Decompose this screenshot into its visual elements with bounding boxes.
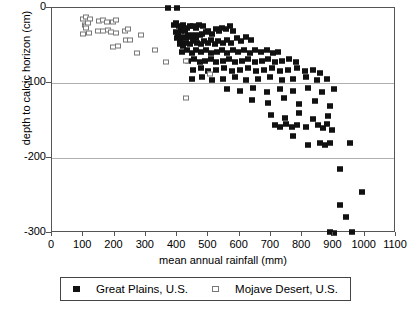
data-point [349, 229, 355, 234]
data-point [134, 51, 140, 56]
data-point [267, 75, 273, 80]
data-point [303, 124, 309, 129]
x-tick-label: 400 [167, 239, 185, 250]
data-point [261, 67, 267, 72]
data-point [282, 115, 288, 120]
data-point [272, 60, 278, 65]
x-axis-title: mean annual rainfall (mm) [51, 254, 395, 266]
data-point [324, 76, 330, 81]
x-tick-mark [332, 232, 333, 236]
data-point [190, 67, 196, 72]
data-point [265, 100, 271, 105]
legend-label: Mojave Desert, U.S. [235, 283, 338, 295]
data-point [310, 67, 316, 72]
data-point [269, 66, 275, 71]
data-point [152, 48, 158, 53]
y-tick-label: -200 [0, 151, 46, 162]
data-point [305, 142, 311, 147]
data-point [255, 76, 261, 81]
data-point [138, 33, 144, 38]
data-point [279, 58, 285, 63]
data-point [331, 87, 337, 92]
y-tick-mark [46, 157, 51, 158]
data-point [327, 141, 333, 146]
data-point [343, 214, 349, 219]
data-point [213, 67, 219, 72]
data-point [319, 90, 325, 95]
x-tick-label: 600 [229, 239, 247, 250]
data-point [310, 117, 316, 122]
data-point [264, 90, 270, 95]
data-point [253, 69, 259, 74]
data-point [245, 57, 251, 62]
legend-entry: Great Plains, U.S. [73, 283, 188, 295]
data-point [275, 49, 281, 54]
y-axis-title: depth to calcic horizon (cm) [20, 8, 32, 148]
data-point [113, 18, 119, 23]
data-point [174, 6, 180, 11]
x-tick-label: 200 [104, 239, 122, 250]
data-point [290, 76, 296, 81]
data-point [359, 189, 365, 194]
x-tick-mark [270, 232, 271, 236]
data-point [213, 60, 219, 65]
data-point [115, 43, 121, 48]
data-point [347, 141, 353, 146]
x-tick-label: 1000 [351, 239, 375, 250]
data-point [229, 69, 235, 74]
data-point [243, 78, 249, 83]
data-point [237, 88, 243, 93]
data-point [125, 27, 131, 32]
data-point [165, 6, 171, 11]
data-point [337, 202, 343, 207]
filled-square-icon [73, 286, 80, 292]
data-point [327, 103, 333, 108]
data-point [296, 111, 302, 116]
data-point [86, 30, 92, 35]
data-point [239, 58, 245, 63]
data-point [281, 96, 287, 101]
data-point [294, 66, 300, 71]
x-tick-mark [207, 232, 208, 236]
data-point [237, 67, 243, 72]
data-point [268, 112, 274, 117]
data-point [329, 127, 335, 132]
x-tick-mark [145, 232, 146, 236]
legend-label: Great Plains, U.S. [96, 283, 188, 295]
x-tick-mark [176, 232, 177, 236]
x-tick-mark [114, 232, 115, 236]
data-point [183, 96, 189, 101]
x-tick-label: 1100 [383, 239, 407, 250]
data-point [259, 58, 265, 63]
x-tick-label: 900 [323, 239, 341, 250]
x-tick-mark [301, 232, 302, 236]
x-tick-mark [364, 232, 365, 236]
x-tick-mark [239, 232, 240, 236]
data-point [277, 69, 283, 74]
data-point [337, 167, 343, 172]
data-point [230, 28, 236, 33]
data-point [303, 75, 309, 80]
x-tick-label: 700 [261, 239, 279, 250]
x-tick-mark [82, 232, 83, 236]
data-point [83, 25, 89, 30]
data-point [163, 60, 169, 65]
x-tick-label: 300 [136, 239, 154, 250]
x-tick-label: 100 [73, 239, 91, 250]
data-point [113, 30, 119, 35]
data-point [228, 40, 234, 45]
y-tick-mark [46, 7, 51, 8]
data-point [324, 122, 330, 127]
data-point [258, 49, 264, 54]
data-point [209, 78, 215, 83]
data-point [286, 57, 292, 62]
data-point [232, 60, 238, 65]
data-point [265, 57, 271, 62]
x-tick-label: 0 [48, 239, 54, 250]
data-point [199, 75, 205, 80]
legend-entry: Mojave Desert, U.S. [212, 283, 338, 295]
open-square-icon [212, 286, 219, 292]
data-point [232, 75, 238, 80]
data-point [312, 99, 318, 104]
data-point [224, 87, 230, 92]
